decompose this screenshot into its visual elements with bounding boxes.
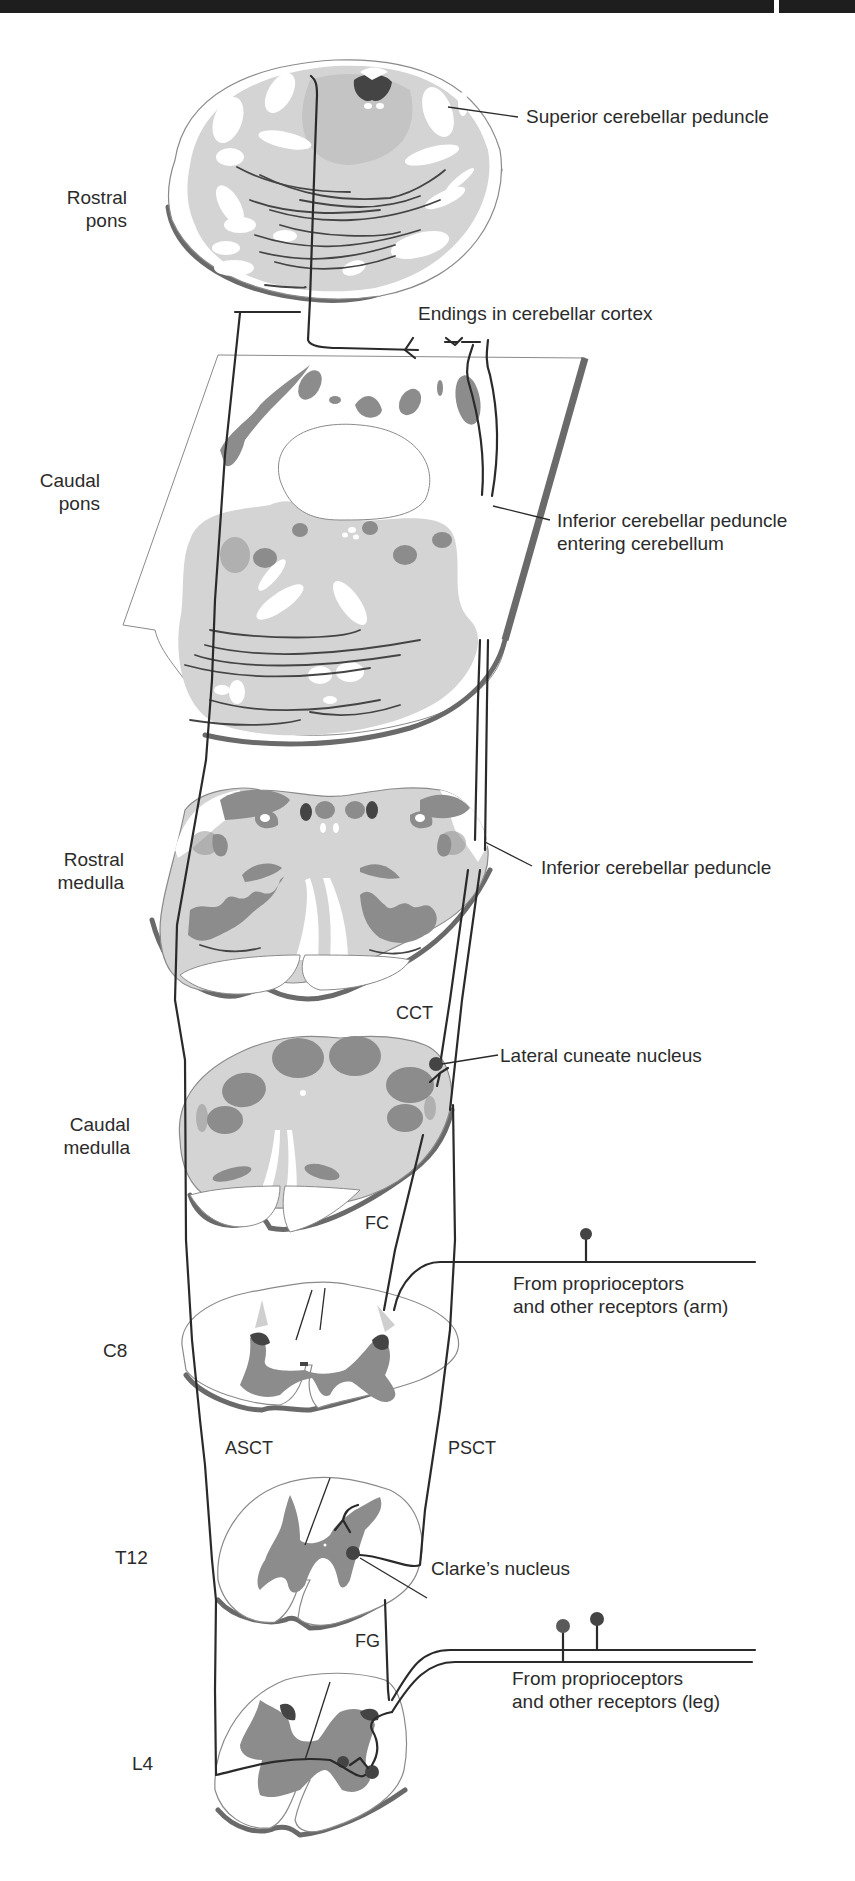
level-label-l4: L4 [132,1752,153,1775]
section-caudal-medulla [179,1036,452,1232]
label-leg-input: From proprioceptors and other receptors … [512,1667,720,1713]
spinocerebellar-pathway-diagram: .lt{fill:#d4d4d4;} .md{fill:#8c8c8c;} .d… [0,0,855,1881]
label-line1: Inferior cerebellar peduncle [557,509,787,532]
level-label-t12: T12 [115,1546,148,1569]
label-inferior-cerebellar-peduncle: Inferior cerebellar peduncle [541,856,771,879]
section-t12 [218,1477,427,1628]
section-rostral-medulla [152,788,490,999]
section-caudal-pons [123,355,585,744]
level-label-line1: Caudal [0,469,100,492]
level-label-line2: medulla [0,1136,130,1159]
level-label-c8: C8 [103,1339,127,1362]
label-cct: CCT [396,1002,433,1025]
level-label-rostral-medulla: Rostral medulla [0,848,124,894]
level-label-line1: Caudal [0,1113,130,1136]
label-superior-cerebellar-peduncle: Superior cerebellar peduncle [526,105,769,128]
label-line2: and other receptors (arm) [513,1295,728,1318]
level-label-line2: medulla [0,871,124,894]
label-line1: From proprioceptors [512,1667,720,1690]
label-clarkes-nucleus: Clarke’s nucleus [431,1557,570,1580]
level-label-line2: pons [0,492,100,515]
level-label-line1: Rostral [0,848,124,871]
level-label-caudal-medulla: Caudal medulla [0,1113,130,1159]
label-icp-entering-cerebellum: Inferior cerebellar peduncle entering ce… [557,509,787,555]
level-label-line2: pons [20,209,127,232]
label-endings-in-cerebellar-cortex: Endings in cerebellar cortex [418,302,652,325]
label-psct: PSCT [448,1437,496,1460]
label-lateral-cuneate-nucleus: Lateral cuneate nucleus [500,1044,702,1067]
label-asct: ASCT [225,1437,273,1460]
label-fc: FC [365,1212,389,1235]
level-label-caudal-pons: Caudal pons [0,469,100,515]
label-arm-input: From proprioceptors and other receptors … [513,1272,728,1318]
level-label-rostral-pons: Rostral pons [20,186,127,232]
section-c8 [182,1282,459,1410]
label-line2: entering cerebellum [557,532,787,555]
section-rostral-pons [168,60,502,301]
label-fg: FG [355,1630,380,1653]
label-line2: and other receptors (leg) [512,1690,720,1713]
level-label-line1: Rostral [20,186,127,209]
label-line1: From proprioceptors [513,1272,728,1295]
